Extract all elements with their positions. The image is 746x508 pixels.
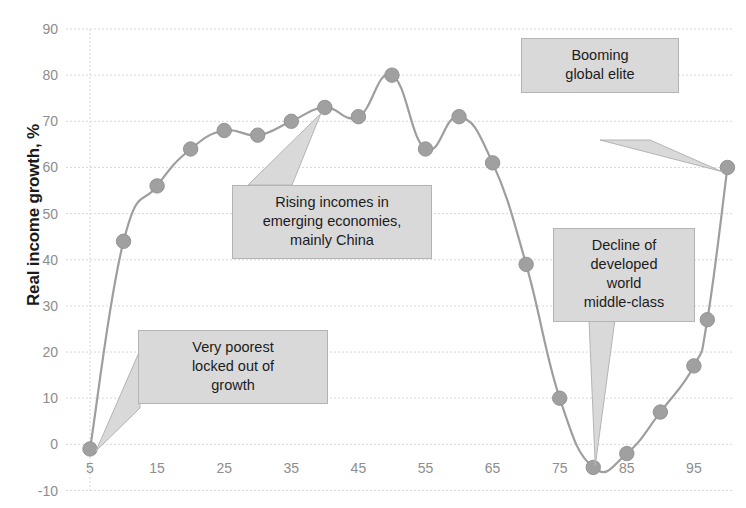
annotation-line: world bbox=[563, 274, 685, 293]
data-point bbox=[418, 142, 432, 156]
data-point bbox=[385, 68, 399, 82]
x-tick-label: 45 bbox=[338, 461, 378, 475]
annotation-line: developed bbox=[563, 255, 685, 274]
y-tick-label: 70 bbox=[24, 114, 58, 128]
annotation-rising-incomes: Rising incomes inemerging economies,main… bbox=[232, 185, 432, 259]
y-tick-label: -10 bbox=[24, 484, 58, 498]
annotation-line: locked out of bbox=[148, 357, 318, 376]
x-tick-label: 55 bbox=[406, 461, 446, 475]
data-point bbox=[251, 128, 265, 142]
data-point bbox=[351, 109, 365, 123]
callout-pointer bbox=[600, 140, 721, 171]
x-tick-label: 15 bbox=[137, 461, 177, 475]
x-tick-label: 75 bbox=[540, 461, 580, 475]
annotation-booming-global-elite: Boomingglobal elite bbox=[521, 38, 679, 93]
data-point bbox=[485, 156, 499, 170]
annotation-line: Decline of bbox=[563, 236, 685, 255]
x-tick-label: 25 bbox=[204, 461, 244, 475]
data-point bbox=[150, 179, 164, 193]
annotation-line: Booming bbox=[531, 46, 669, 65]
y-tick-label: 90 bbox=[24, 22, 58, 36]
annotation-line: Rising incomes in bbox=[242, 193, 422, 212]
y-tick-label: 30 bbox=[24, 299, 58, 313]
data-point bbox=[183, 142, 197, 156]
data-point bbox=[653, 405, 667, 419]
callout-pointer bbox=[588, 297, 618, 465]
annotation-line: growth bbox=[148, 376, 318, 395]
annotation-line: middle-class bbox=[563, 293, 685, 312]
data-point bbox=[452, 109, 466, 123]
x-tick-label: 85 bbox=[607, 461, 647, 475]
x-tick-label: 95 bbox=[674, 461, 714, 475]
data-point bbox=[700, 313, 714, 327]
y-tick-label: 40 bbox=[24, 253, 58, 267]
data-point bbox=[553, 391, 567, 405]
elephant-chart: Real income growth, % -10010203040506070… bbox=[0, 0, 746, 508]
data-point bbox=[116, 234, 130, 248]
annotation-line: global elite bbox=[531, 65, 669, 84]
data-point bbox=[217, 123, 231, 137]
y-axis-ticks: -100102030405060708090 bbox=[22, 0, 58, 508]
annotation-decline-middle-class: Decline ofdevelopedworldmiddle-class bbox=[553, 228, 695, 322]
y-tick-label: 10 bbox=[24, 391, 58, 405]
data-point bbox=[318, 100, 332, 114]
data-point bbox=[519, 257, 533, 271]
data-point bbox=[284, 114, 298, 128]
y-tick-label: 20 bbox=[24, 345, 58, 359]
data-point bbox=[586, 460, 600, 474]
data-point bbox=[687, 359, 701, 373]
data-point bbox=[620, 446, 634, 460]
data-point bbox=[720, 160, 734, 174]
annotation-very-poorest: Very poorestlocked out ofgrowth bbox=[138, 330, 328, 404]
x-tick-label: 5 bbox=[70, 461, 110, 475]
data-point bbox=[83, 442, 97, 456]
annotation-line: mainly China bbox=[242, 231, 422, 250]
y-tick-label: 80 bbox=[24, 68, 58, 82]
y-tick-label: 50 bbox=[24, 207, 58, 221]
annotation-line: emerging economies, bbox=[242, 212, 422, 231]
x-tick-label: 65 bbox=[473, 461, 513, 475]
annotation-line: Very poorest bbox=[148, 338, 318, 357]
x-tick-label: 35 bbox=[271, 461, 311, 475]
y-tick-label: 0 bbox=[24, 437, 58, 451]
y-tick-label: 60 bbox=[24, 160, 58, 174]
